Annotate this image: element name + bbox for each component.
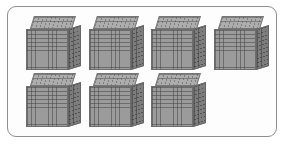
cube-right-face xyxy=(193,25,206,70)
cube-right-face xyxy=(131,25,144,70)
cube-top-face xyxy=(30,73,76,86)
cube-right-face xyxy=(68,82,81,127)
cube-right-face xyxy=(256,25,269,70)
thousand-cube xyxy=(214,16,270,70)
cube-front-face xyxy=(26,29,68,70)
cube-top-face xyxy=(218,16,264,29)
cube-right-face xyxy=(131,82,144,127)
cube-right-face xyxy=(68,25,81,70)
cube-top-face xyxy=(93,16,139,29)
block-grid xyxy=(8,7,276,136)
cube-front-face xyxy=(151,29,193,70)
cube-front-face xyxy=(151,86,193,127)
cube-front-face xyxy=(26,86,68,127)
cube-front-face xyxy=(89,29,131,70)
cube-top-face xyxy=(93,73,139,86)
thousand-cube xyxy=(151,73,207,127)
thousand-cube xyxy=(151,16,207,70)
cube-top-face xyxy=(155,16,201,29)
thousand-cube xyxy=(26,73,82,127)
cube-front-face xyxy=(89,86,131,127)
cube-front-face xyxy=(214,29,256,70)
cube-top-face xyxy=(30,16,76,29)
cube-right-face xyxy=(193,82,206,127)
thousand-cube xyxy=(26,16,82,70)
thousand-cube xyxy=(89,73,145,127)
block-panel xyxy=(7,6,277,137)
thousand-cube xyxy=(89,16,145,70)
figure-canvas xyxy=(0,0,288,152)
cube-top-face xyxy=(155,73,201,86)
